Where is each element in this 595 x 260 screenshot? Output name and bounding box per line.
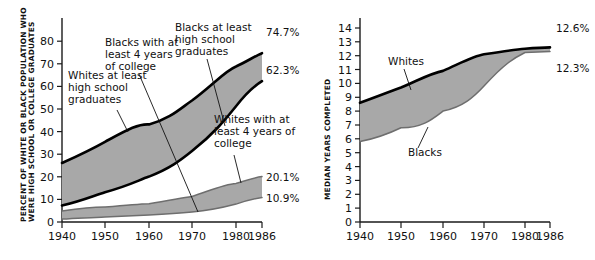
right-ytick-label-12: 12 xyxy=(338,50,352,63)
left-ytick-label-80: 80 xyxy=(40,35,54,48)
left-annot-blacks-hs-line3: graduates xyxy=(175,45,228,57)
left-xtick-label-1960: 1960 xyxy=(135,230,163,243)
chart-panel-right: MEDIAN YEARS COMPLETED xyxy=(300,0,595,260)
left-annot-whites-col-line1: Whites with at xyxy=(214,113,290,125)
left-endlabel-74-7: 74.7% xyxy=(266,26,299,38)
right-ytick-label-3: 3 xyxy=(345,174,352,187)
right-endlabel-12-6: 12.6% xyxy=(556,22,589,34)
right-y-axis-title: MEDIAN YEARS COMPLETED xyxy=(323,79,332,200)
left-ytick-label-60: 60 xyxy=(40,80,54,93)
right-annot-whites-label: Whites xyxy=(388,55,424,67)
left-ytick-label-20: 20 xyxy=(40,171,54,184)
right-xtick-label-1940: 1940 xyxy=(346,230,374,243)
left-ytick-label-70: 70 xyxy=(40,58,54,71)
chart-panel-left: PERCENT OF WHITE OR BLACK POPULATION WHO… xyxy=(0,0,300,260)
right-ytick-label-10: 10 xyxy=(338,77,352,90)
left-leader-whites-hs xyxy=(117,110,128,132)
right-ytick-label-9: 9 xyxy=(345,91,352,104)
right-xtick-label-1950: 1950 xyxy=(387,230,415,243)
right-chart-svg: MEDIAN YEARS COMPLETED xyxy=(300,0,595,260)
right-xtick-label-1960: 1960 xyxy=(429,230,457,243)
left-annot-blacks-col-line3: of college xyxy=(105,60,156,72)
left-annot-blacks-hs-line1: Blacks at least xyxy=(175,21,252,33)
left-xtick-label-1970: 1970 xyxy=(178,230,206,243)
left-annot-whites-hs-line2: high school xyxy=(68,81,128,93)
left-y-ticks: 0 10 20 30 40 50 60 70 80 xyxy=(40,35,62,229)
right-ytick-label-11: 11 xyxy=(338,64,352,77)
right-ytick-label-4: 4 xyxy=(345,161,352,174)
right-ytick-label-1: 1 xyxy=(345,202,352,215)
left-annot-blacks-hs-line2: high school xyxy=(175,33,235,45)
right-annot-blacks-label: Blacks xyxy=(408,146,442,158)
right-ytick-label-0: 0 xyxy=(345,216,352,229)
right-ytick-label-7: 7 xyxy=(345,119,352,132)
right-xtick-label-1980: 1980 xyxy=(511,230,539,243)
left-xtick-label-1986: 1986 xyxy=(248,230,276,243)
left-ytick-label-30: 30 xyxy=(40,148,54,161)
left-annot-whites-hs-line3: graduates xyxy=(68,93,121,105)
figure-root: PERCENT OF WHITE OR BLACK POPULATION WHO… xyxy=(0,0,595,260)
left-xtick-label-1950: 1950 xyxy=(91,230,119,243)
right-ytick-label-13: 13 xyxy=(338,36,352,49)
left-leader-whites-col xyxy=(234,155,241,183)
right-xtick-label-1986: 1986 xyxy=(536,230,564,243)
right-annotation-blacks: Blacks xyxy=(408,127,442,158)
left-annot-blacks-col-line1: Blacks with at xyxy=(105,36,178,48)
right-x-ticks: 1940 1950 1960 1970 1980 1986 xyxy=(346,222,564,243)
left-endlabel-10-9: 10.9% xyxy=(266,192,299,204)
left-annot-blacks-col-line2: least 4 years xyxy=(105,48,173,60)
right-ytick-label-5: 5 xyxy=(345,147,352,160)
left-x-ticks: 1940 1950 1960 1970 1980 1986 xyxy=(48,222,276,243)
left-annotation-whites-highschool: Whites at least high school graduates xyxy=(68,69,147,132)
right-ytick-label-6: 6 xyxy=(345,133,352,146)
right-ytick-label-14: 14 xyxy=(338,22,352,35)
left-ytick-label-50: 50 xyxy=(40,103,54,116)
left-y-axis-title: PERCENT OF WHITE OR BLACK POPULATION WHO… xyxy=(19,7,36,222)
left-xtick-label-1980: 1980 xyxy=(222,230,250,243)
right-leader-blacks xyxy=(418,127,428,148)
left-annot-whites-col-line3: college xyxy=(214,137,252,149)
right-y-ticks: 0 1 2 3 4 5 6 7 8 9 10 11 12 13 14 xyxy=(338,22,360,229)
left-ytick-label-0: 0 xyxy=(47,216,54,229)
right-xtick-label-1970: 1970 xyxy=(470,230,498,243)
left-ytick-label-40: 40 xyxy=(40,126,54,139)
left-endlabel-20-1: 20.1% xyxy=(266,171,299,183)
right-ytick-label-2: 2 xyxy=(345,188,352,201)
right-ytick-label-8: 8 xyxy=(345,105,352,118)
right-endlabel-12-3: 12.3% xyxy=(556,62,589,74)
left-ytick-label-10: 10 xyxy=(40,193,54,206)
left-endlabel-62-3: 62.3% xyxy=(266,64,299,76)
left-annot-whites-col-line2: least 4 years of xyxy=(214,125,295,137)
left-xtick-label-1940: 1940 xyxy=(48,230,76,243)
left-chart-svg: PERCENT OF WHITE OR BLACK POPULATION WHO… xyxy=(0,0,300,260)
left-y-axis-title-line2: WERE HIGH SCHOOL OR COLLEGE GRADUATES xyxy=(27,21,36,222)
